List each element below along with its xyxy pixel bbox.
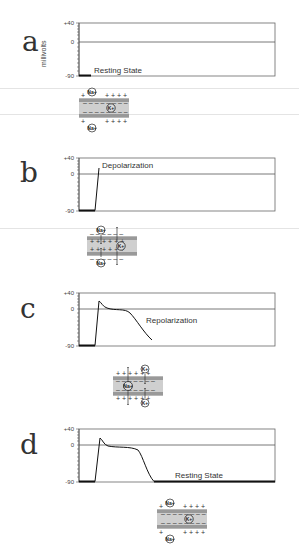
sodium-ion-label: Na+ (123, 383, 132, 389)
annotation-resting-state: Resting State (94, 66, 143, 75)
svg-text:– – – – – – –: – – – – – – – (116, 377, 155, 384)
potential-trace (79, 301, 152, 346)
membrane-diagram-c: + + + + + + + + + + + + – – – – – – – – … (113, 365, 163, 407)
svg-text:– – – – – – – –: – – – – – – – – (83, 108, 128, 115)
tick-plus40: +40 (64, 20, 75, 26)
tick-plus40: +40 (64, 290, 75, 296)
tick-zero: 0 (71, 171, 75, 177)
membrane-diagram-b: – – – – – – – – – – – – + + + + + + + + … (87, 226, 137, 267)
potassium-ion-label: K+ (142, 366, 149, 372)
tick-minus90: -90 (65, 208, 74, 214)
annotation-resting-state: Resting State (175, 471, 224, 480)
svg-text:+: + (81, 118, 85, 125)
membrane-diagram-d: – – – – – – – – – – – – – – – – ++ + + +… (157, 499, 207, 543)
tick-zero: 0 (71, 39, 75, 45)
svg-text:– – – – – – – –: – – – – – – – – (161, 510, 206, 517)
sodium-ion-label: Na+ (87, 125, 96, 131)
annotation-depolarization: Depolarization (102, 161, 153, 170)
chart-c: +40 0 -90 Repolarization (64, 290, 275, 349)
potassium-ion-label: K+ (186, 516, 193, 522)
svg-text:+: + (81, 92, 85, 99)
svg-text:– – – – – – –: – – – – – – – (116, 386, 155, 393)
chart-a: +40 0 -90 millivolts Resting State (40, 20, 275, 79)
svg-text:– – – – – – – –: – – – – – – – – (161, 519, 206, 526)
svg-text:+ + + +: + + + + (105, 92, 127, 99)
y-axis-label: millivolts (40, 40, 47, 67)
sodium-ion-label: Na+ (96, 260, 105, 266)
tick-zero: 0 (71, 442, 75, 448)
svg-text:+: + (159, 529, 163, 536)
tick-minus90: -90 (65, 73, 74, 79)
sodium-ion-label: Na+ (87, 89, 96, 95)
tick-minus90: -90 (65, 479, 74, 485)
svg-text:+ + + +: + + + + (183, 503, 205, 510)
svg-text:– – – – – –: – – – – – – (90, 230, 123, 237)
action-potential-figure: +40 0 -90 millivolts Resting State – – –… (0, 0, 299, 545)
tick-plus40: +40 (64, 155, 75, 161)
annotation-repolarization: Repolarization (146, 316, 197, 325)
tick-plus40: +40 (64, 426, 75, 432)
chart-b: +40 0 -90 Depolarization (64, 155, 275, 214)
svg-text:– – – – – – – –: – – – – – – – – (83, 99, 128, 106)
svg-text:– – – – – –: – – – – – – (90, 255, 123, 262)
membrane-diagram-a: – – – – – – – – – – – – – – – – ++ + + +… (79, 88, 129, 132)
sodium-ion-label: Na+ (165, 536, 174, 542)
potassium-ion-label: K+ (108, 105, 115, 111)
svg-text:+ + + +: + + + + (183, 529, 205, 536)
chart-d: +40 0 -90 Resting State (64, 426, 275, 485)
sodium-ion-label: Na+ (165, 500, 174, 506)
tick-zero: 0 (71, 306, 75, 312)
potassium-ion-label: K+ (142, 400, 149, 406)
potassium-ion-label: K+ (118, 243, 125, 249)
svg-text:+: + (159, 503, 163, 510)
svg-text:+ + + +: + + + + (105, 118, 127, 125)
tick-minus90: -90 (65, 343, 74, 349)
potential-trace (79, 438, 154, 482)
sodium-ion-label: Na+ (96, 227, 105, 233)
